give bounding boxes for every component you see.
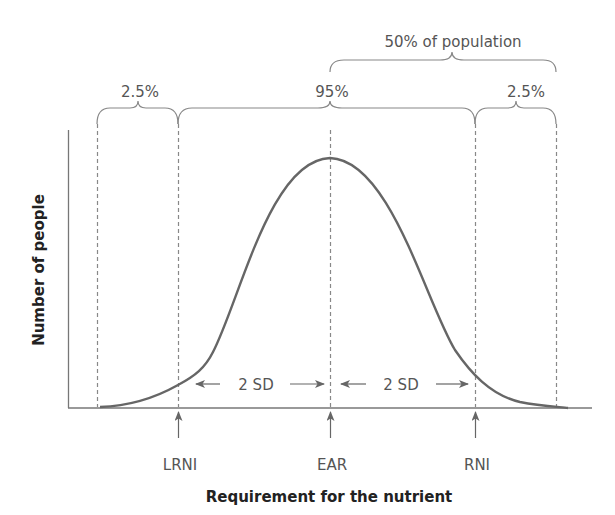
pct-left-label: 2.5% [121, 83, 159, 101]
marker-rni: RNI [464, 456, 490, 474]
dashed-guides [98, 124, 557, 407]
distribution-curve [100, 158, 568, 408]
marker-lrni: LRNI [163, 456, 197, 474]
marker-ear: EAR [317, 456, 347, 474]
y-axis-title: Number of people [30, 194, 48, 346]
x-axis-title: Requirement for the nutrient [206, 488, 453, 506]
pct-right-label: 2.5% [507, 83, 545, 101]
requirement-distribution-diagram: 2.5% 95% 2.5% 50% of population 2 SD 2 S… [0, 0, 615, 515]
pct-center-label: 95% [315, 83, 348, 101]
sd-right-label: 2 SD [383, 376, 418, 394]
sd-left-label: 2 SD [238, 376, 273, 394]
pct-half-label: 50% of population [384, 33, 521, 51]
marker-arrows [179, 412, 476, 438]
